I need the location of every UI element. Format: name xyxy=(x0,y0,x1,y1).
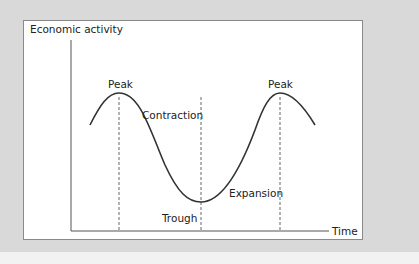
expansion-label: Expansion xyxy=(229,187,283,199)
y-axis-label: Economic activity xyxy=(30,23,123,35)
peak-right-label: Peak xyxy=(268,78,293,90)
x-axis-label: Time xyxy=(332,225,358,237)
contraction-label: Contraction xyxy=(142,109,203,121)
peak-left-label: Peak xyxy=(108,78,133,90)
trough-label: Trough xyxy=(162,212,197,224)
